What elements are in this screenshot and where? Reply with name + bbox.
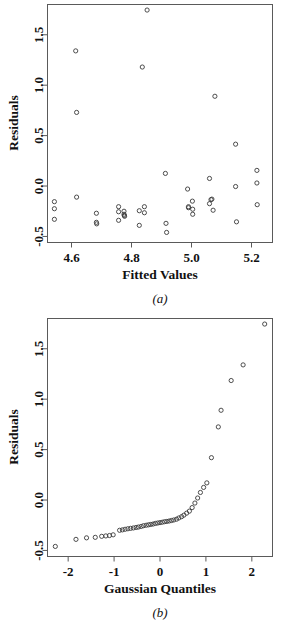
data-point — [94, 211, 98, 215]
data-point — [52, 217, 56, 221]
data-point — [140, 65, 144, 69]
data-point — [202, 485, 206, 489]
data-point — [191, 212, 195, 216]
data-point — [75, 110, 79, 114]
data-point — [165, 230, 169, 234]
panel-b-axis-ticks — [43, 349, 252, 562]
y-tick-label: -0.5 — [31, 540, 46, 561]
data-point — [164, 221, 168, 225]
y-tick-label: 0.0 — [31, 178, 46, 194]
data-point — [255, 203, 259, 207]
panel-a-residuals-vs-fitted: 4.64.85.05.2 -0.50.00.51.01.5 Fitted Val… — [0, 0, 283, 313]
panel-b-x-tick-labels: -2-1012 — [63, 564, 255, 579]
data-point — [53, 544, 57, 548]
data-point — [190, 199, 194, 203]
panel-a-axis-ticks — [43, 35, 252, 248]
panel-b-label: (b) — [152, 605, 167, 620]
data-point — [84, 536, 88, 540]
data-point — [196, 496, 200, 500]
x-tick-label: 1 — [203, 564, 210, 579]
panel-a-y-tick-labels: -0.50.00.51.01.5 — [31, 26, 46, 247]
data-point — [205, 481, 209, 485]
panel-b-normal-qq-plot: -2-1012 -0.50.00.51.01.5 Gaussian Quanti… — [0, 313, 283, 626]
data-point — [255, 168, 259, 172]
y-tick-label: 1.5 — [31, 340, 46, 357]
data-point — [190, 505, 194, 509]
data-point — [229, 378, 233, 382]
y-tick-label: -0.5 — [31, 226, 46, 247]
y-tick-label: 1.0 — [31, 391, 46, 407]
x-tick-label: 4.8 — [123, 250, 140, 265]
panel-b-y-axis-title: Residuals — [6, 409, 21, 465]
data-point — [241, 363, 245, 367]
data-point — [234, 220, 238, 224]
y-tick-label: 1.5 — [31, 26, 46, 43]
panel-a-frame — [48, 5, 273, 243]
x-tick-label: -1 — [109, 564, 120, 579]
x-tick-label: 0 — [157, 564, 164, 579]
data-point — [137, 223, 141, 227]
data-point — [219, 408, 223, 412]
data-point — [142, 211, 146, 215]
data-point — [93, 535, 97, 539]
data-point — [145, 8, 149, 12]
panel-b-svg: -2-1012 -0.50.00.51.01.5 Gaussian Quanti… — [0, 313, 283, 626]
x-tick-label: -2 — [63, 564, 74, 579]
data-point — [117, 205, 121, 209]
data-point — [193, 501, 197, 505]
x-tick-label: 5.2 — [243, 250, 259, 265]
data-point — [117, 218, 121, 222]
data-point — [186, 187, 190, 191]
data-point — [213, 94, 217, 98]
panel-a-plot-area: 4.64.85.05.2 -0.50.00.51.01.5 Fitted Val… — [0, 0, 283, 313]
data-point — [74, 49, 78, 53]
panel-a-data-points — [52, 8, 259, 235]
panel-a-x-axis-title: Fitted Values — [122, 267, 197, 282]
x-tick-label: 2 — [249, 564, 256, 579]
data-point — [234, 142, 238, 146]
data-point — [142, 205, 146, 209]
y-tick-label: 0.5 — [31, 441, 46, 458]
data-point — [163, 171, 167, 175]
y-tick-label: 0.0 — [31, 492, 46, 508]
data-point — [117, 210, 121, 214]
panel-a-y-axis-title: Residuals — [6, 95, 21, 151]
data-point — [207, 176, 211, 180]
panel-b-data-points — [53, 322, 267, 549]
data-point — [263, 322, 267, 326]
panel-b-plot-area: -2-1012 -0.50.00.51.01.5 Gaussian Quanti… — [0, 313, 283, 626]
data-point — [255, 181, 259, 185]
data-point — [209, 456, 213, 460]
data-point — [137, 209, 141, 213]
x-tick-label: 4.6 — [63, 250, 80, 265]
data-point — [52, 207, 56, 211]
data-point — [100, 534, 104, 538]
data-point — [52, 200, 56, 204]
data-point — [75, 195, 79, 199]
y-tick-label: 1.0 — [31, 77, 46, 93]
data-point — [211, 208, 215, 212]
data-point — [234, 184, 238, 188]
data-point — [191, 207, 195, 211]
y-tick-label: 0.5 — [31, 127, 46, 144]
data-point — [74, 537, 78, 541]
panel-a-x-tick-labels: 4.64.85.05.2 — [63, 250, 259, 265]
panel-a-svg: 4.64.85.05.2 -0.50.00.51.01.5 Fitted Val… — [0, 0, 283, 313]
data-point — [216, 425, 220, 429]
data-point — [198, 490, 202, 494]
panel-a-label: (a) — [152, 291, 167, 306]
panel-b-y-tick-labels: -0.50.00.51.01.5 — [31, 340, 46, 561]
x-tick-label: 5.0 — [183, 250, 199, 265]
panel-b-x-axis-title: Gaussian Quantiles — [104, 581, 216, 596]
data-point — [207, 202, 211, 206]
